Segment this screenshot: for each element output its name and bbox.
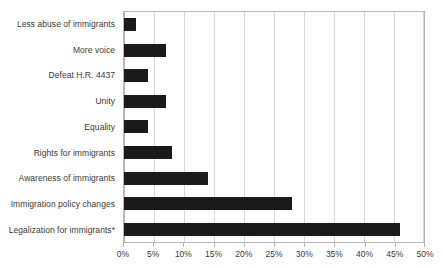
- bar-row: [124, 18, 424, 31]
- tick-mark: [334, 243, 335, 247]
- tick-mark: [214, 243, 215, 247]
- tick-mark: [183, 243, 184, 247]
- bar: [124, 223, 400, 236]
- bar: [124, 146, 172, 159]
- bar-series: [124, 12, 424, 242]
- plot-area: [123, 11, 425, 243]
- tick-label: 20%: [235, 248, 252, 260]
- tick-label: 25%: [265, 248, 282, 260]
- tick-label: 30%: [296, 248, 313, 260]
- tick-label: 10%: [175, 248, 192, 260]
- bar: [124, 197, 292, 210]
- category-label: Unity: [95, 96, 119, 106]
- bar-row: [124, 172, 424, 185]
- category-label: Defeat H.R. 4437: [49, 70, 119, 80]
- tick-mark: [365, 243, 366, 247]
- bar: [124, 95, 166, 108]
- category-label: Rights for immigrants: [34, 148, 119, 158]
- tick-label: 40%: [356, 248, 373, 260]
- tick-mark: [244, 243, 245, 247]
- bar: [124, 120, 148, 133]
- category-label: Legalization for immigrants*: [9, 225, 119, 235]
- tick-mark: [274, 243, 275, 247]
- bar-row: [124, 197, 424, 210]
- tick-mark: [395, 243, 396, 247]
- tick-mark: [424, 243, 425, 247]
- category-axis-labels: Less abuse of immigrantsMore voiceDefeat…: [0, 11, 119, 243]
- bar: [124, 44, 166, 57]
- category-label: More voice: [73, 45, 119, 55]
- x-axis-tick-labels: 0%5%10%15%20%25%30%35%40%45%50%: [123, 248, 425, 262]
- tick-mark: [123, 243, 124, 247]
- category-label: Immigration policy changes: [11, 199, 119, 209]
- tick-mark: [153, 243, 154, 247]
- tick-label: 35%: [326, 248, 343, 260]
- tick-label: 50%: [416, 248, 433, 260]
- category-label: Awareness of immigrants: [19, 173, 119, 183]
- bar: [124, 18, 136, 31]
- bar: [124, 172, 208, 185]
- bar-row: [124, 44, 424, 57]
- bar-row: [124, 223, 424, 236]
- bar-chart: Less abuse of immigrantsMore voiceDefeat…: [0, 0, 443, 268]
- bar: [124, 69, 148, 82]
- bar-row: [124, 146, 424, 159]
- tick-label: 0%: [117, 248, 129, 260]
- tick-label: 45%: [386, 248, 403, 260]
- bar-row: [124, 120, 424, 133]
- bar-row: [124, 69, 424, 82]
- tick-mark: [304, 243, 305, 247]
- bar-row: [124, 95, 424, 108]
- tick-label: 15%: [205, 248, 222, 260]
- tick-label: 5%: [147, 248, 159, 260]
- category-label: Less abuse of immigrants: [17, 19, 119, 29]
- category-label: Equality: [84, 122, 119, 132]
